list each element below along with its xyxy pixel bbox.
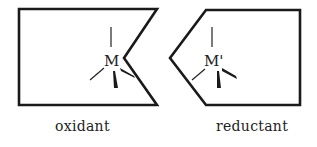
- reductant-caption: reductant: [216, 118, 288, 134]
- reductant-shape: M': [170, 10, 300, 105]
- wedge-bond-down: [113, 71, 118, 88]
- oxidant-metal-label: M: [104, 52, 119, 70]
- bond-lower-left: [90, 68, 104, 80]
- oxidant-caption: oxidant: [55, 118, 110, 134]
- reductant-metal-label: M': [204, 52, 223, 70]
- oxidant-shape: M: [19, 9, 157, 105]
- wedge-bond-down: [217, 71, 221, 88]
- bond-lower-left: [192, 69, 205, 80]
- wedge-bond-right: [222, 68, 237, 79]
